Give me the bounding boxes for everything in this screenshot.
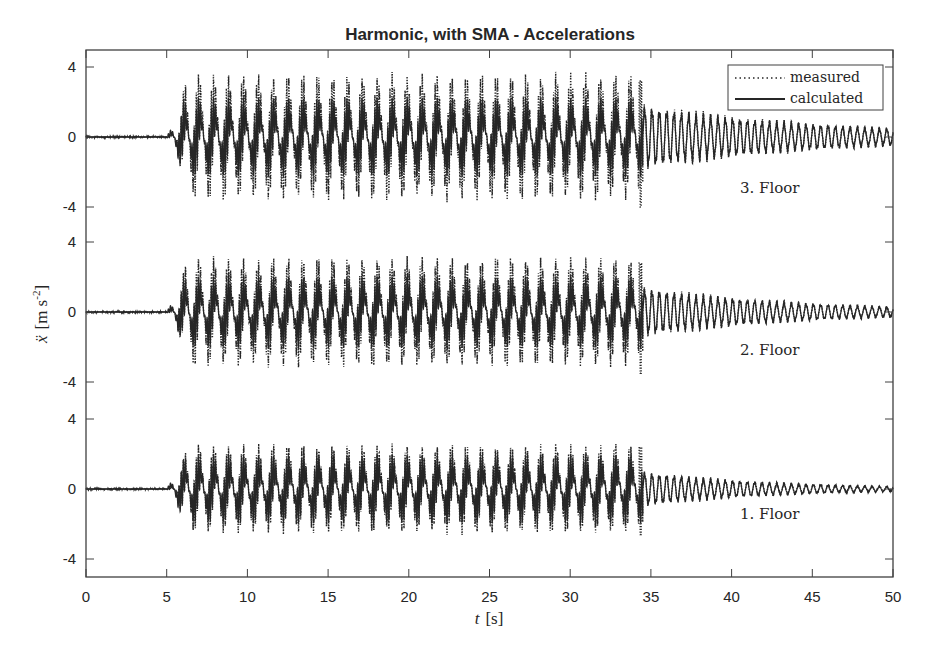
x-tick-label: 45 <box>804 588 821 605</box>
legend-measured-label: measured <box>790 69 860 85</box>
x-tick-label: 40 <box>723 588 740 605</box>
waveform-layer <box>86 72 893 535</box>
x-tick-label: 5 <box>163 588 171 605</box>
panel-label-floor-3: 3. Floor <box>740 179 800 197</box>
x-tick-label: 35 <box>643 588 660 605</box>
y-tick-label: 4 <box>68 410 76 427</box>
y-axis-variable: ẍ <box>32 335 51 344</box>
x-tick-label: 30 <box>562 588 579 605</box>
y-axis-unit-close: ] <box>32 285 51 291</box>
legend-calculated-label: calculated <box>790 90 863 106</box>
chart-title: Harmonic, with SMA - Accelerations <box>345 25 635 44</box>
y-axis-label: ẍ[m s-2] <box>30 285 51 344</box>
y-tick-label: 4 <box>68 233 76 250</box>
y-axis-tick-labels: 40-440-440-4 <box>63 58 76 567</box>
x-axis-variable: t <box>475 609 481 628</box>
x-tick-label: 25 <box>481 588 498 605</box>
x-tick-label: 10 <box>239 588 256 605</box>
x-axis-label: t[s] <box>475 609 504 628</box>
x-tick-label: 15 <box>320 588 337 605</box>
y-tick-label: 0 <box>68 480 76 497</box>
x-tick-label: 0 <box>82 588 90 605</box>
x-axis-tick-labels: 05101520253035404550 <box>82 588 902 605</box>
chart-figure: Harmonic, with SMA - Accelerations 05101… <box>0 0 927 658</box>
y-tick-label: -4 <box>63 198 76 215</box>
x-tick-label: 20 <box>400 588 417 605</box>
y-tick-label: -4 <box>63 550 76 567</box>
y-tick-label: 4 <box>68 58 76 75</box>
y-tick-label: 0 <box>68 128 76 145</box>
y-tick-label: -4 <box>63 373 76 390</box>
y-tick-label: 0 <box>68 303 76 320</box>
y-axis-unit-exponent: -2 <box>30 291 42 300</box>
x-axis-unit: [s] <box>485 609 503 628</box>
legend: measured calculated <box>728 65 883 110</box>
x-tick-label: 50 <box>885 588 902 605</box>
panel-label-floor-1: 1. Floor <box>740 505 800 523</box>
y-axis-unit: [m s <box>32 300 51 330</box>
panel-label-floor-2: 2. Floor <box>740 341 800 359</box>
